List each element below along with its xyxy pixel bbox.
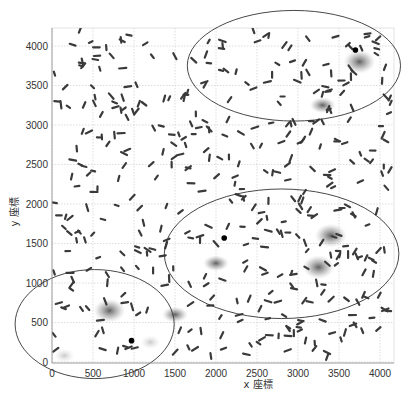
particle-marker bbox=[370, 318, 375, 319]
particle-marker bbox=[243, 354, 250, 355]
particle-marker bbox=[235, 182, 236, 186]
particle-marker bbox=[53, 270, 54, 274]
density-blob bbox=[344, 50, 376, 74]
density-blob bbox=[93, 299, 125, 323]
particle-marker bbox=[268, 33, 269, 38]
particle-marker bbox=[269, 123, 273, 124]
particle-marker bbox=[126, 35, 131, 36]
particle-marker bbox=[374, 48, 379, 49]
particle-marker bbox=[264, 81, 271, 83]
particle-marker bbox=[188, 238, 193, 239]
x-tick-label: 1000 bbox=[123, 368, 146, 379]
particle-marker bbox=[76, 238, 77, 242]
particle-marker bbox=[201, 328, 202, 334]
particle-marker bbox=[282, 221, 286, 222]
particle-marker bbox=[132, 347, 138, 348]
particle-marker bbox=[146, 308, 148, 313]
particle-marker bbox=[159, 125, 164, 126]
x-tick-label: 3000 bbox=[287, 368, 310, 379]
particle-marker bbox=[71, 174, 72, 180]
particle-marker bbox=[124, 86, 131, 87]
particle-marker bbox=[107, 279, 108, 286]
particle-marker bbox=[365, 33, 371, 34]
particle-marker bbox=[118, 176, 119, 181]
particle-marker bbox=[365, 36, 370, 37]
particle-marker bbox=[160, 226, 161, 232]
particle-marker bbox=[65, 215, 66, 219]
y-tick-label: 1500 bbox=[26, 238, 49, 249]
x-tick-label: 500 bbox=[85, 368, 102, 379]
y-tick-label: 2000 bbox=[26, 199, 49, 210]
particle-marker bbox=[267, 216, 268, 220]
particle-marker bbox=[96, 257, 100, 258]
particle-marker bbox=[366, 224, 370, 225]
particle-marker bbox=[385, 311, 391, 312]
particle-marker bbox=[219, 48, 224, 49]
particle-marker bbox=[117, 348, 118, 354]
y-tick-label: 2500 bbox=[26, 159, 49, 170]
particle-marker bbox=[135, 246, 139, 247]
particle-marker bbox=[150, 248, 156, 250]
particle-marker bbox=[291, 288, 297, 289]
density-blob bbox=[140, 335, 160, 349]
particle-marker bbox=[297, 327, 301, 328]
particle-marker bbox=[238, 161, 240, 166]
particle-marker bbox=[236, 69, 237, 74]
y-tick-label: 3000 bbox=[26, 120, 49, 131]
y-tick-label: 4000 bbox=[26, 41, 49, 52]
x-axis-label: x 座標 bbox=[243, 378, 272, 390]
particle-marker bbox=[89, 41, 93, 43]
x-tick-label: 3500 bbox=[328, 368, 351, 379]
particle-marker bbox=[207, 63, 212, 64]
particle-marker bbox=[123, 346, 128, 347]
y-tick-label: 0 bbox=[42, 357, 48, 368]
particle-marker bbox=[61, 101, 62, 108]
particle-marker bbox=[121, 108, 122, 113]
particle-marker bbox=[219, 70, 223, 71]
x-tick-label: 4000 bbox=[369, 368, 392, 379]
particle-marker bbox=[114, 132, 115, 139]
particle-marker bbox=[169, 134, 175, 135]
particle-marker bbox=[322, 86, 328, 87]
x-tick-label: 0 bbox=[49, 368, 55, 379]
particle-marker bbox=[321, 284, 325, 285]
particle-marker bbox=[82, 59, 84, 66]
particle-marker bbox=[334, 209, 341, 210]
particle-marker bbox=[209, 155, 210, 161]
particle-marker bbox=[253, 238, 258, 239]
particle-marker bbox=[316, 280, 317, 287]
particle-marker bbox=[210, 353, 211, 359]
particle-marker bbox=[291, 271, 292, 275]
particle-marker bbox=[101, 219, 106, 220]
particle-marker bbox=[274, 171, 280, 173]
particle-marker bbox=[161, 285, 168, 286]
particle-marker bbox=[82, 166, 87, 167]
particle-marker bbox=[244, 244, 248, 246]
highlight-dot bbox=[129, 338, 135, 344]
particle-marker bbox=[325, 91, 330, 92]
density-blob bbox=[162, 307, 188, 323]
particle-marker bbox=[272, 170, 273, 175]
particle-marker bbox=[373, 271, 374, 277]
particle-marker bbox=[307, 301, 313, 302]
particle-marker bbox=[143, 220, 145, 226]
particle-marker bbox=[75, 186, 80, 187]
particle-marker bbox=[97, 320, 104, 321]
particle-marker bbox=[261, 247, 268, 248]
y-tick-label: 3500 bbox=[26, 80, 49, 91]
particle-marker bbox=[320, 144, 321, 148]
particle-marker bbox=[69, 159, 76, 160]
particle-marker bbox=[178, 133, 179, 137]
x-tick-label: 2000 bbox=[205, 368, 228, 379]
scatter-figure: 05001000150020002500300035004000 0500100… bbox=[0, 0, 413, 397]
y-tick-labels: 05001000150020002500300035004000 bbox=[26, 41, 49, 368]
particle-marker bbox=[259, 212, 265, 213]
y-axis-label: y 座標 bbox=[8, 197, 20, 226]
x-tick-label: 2500 bbox=[246, 368, 269, 379]
particle-marker bbox=[119, 68, 126, 69]
particle-marker bbox=[360, 152, 362, 156]
particle-marker bbox=[185, 143, 186, 147]
particle-marker bbox=[285, 179, 291, 180]
highlight-dot bbox=[353, 47, 359, 53]
particle-marker bbox=[95, 95, 96, 100]
